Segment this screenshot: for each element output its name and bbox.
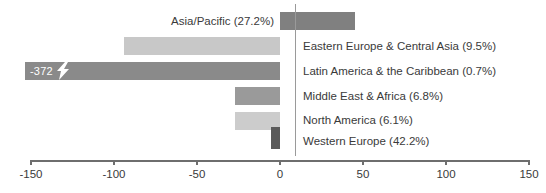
axis-tick — [528, 160, 530, 165]
bar-western-europe[interactable] — [271, 127, 280, 149]
axis-tick-label: -100 — [102, 167, 125, 182]
axis-tick-label: -150 — [19, 167, 42, 182]
bar-inside-label-asia-pacific: Asia/Pacific (27.2%) — [171, 13, 274, 29]
axis-tick-label: 100 — [436, 167, 455, 182]
axis-tick — [113, 160, 115, 165]
axis-tick-label: 0 — [277, 167, 283, 182]
axis-tick — [196, 160, 198, 165]
bar-value-label-latin-america: -372 — [30, 63, 53, 79]
axis-tick — [362, 160, 364, 165]
category-label-middle-east-africa: Middle East & Africa (6.8%) — [303, 88, 443, 104]
bar-middle-east-africa[interactable] — [235, 87, 280, 105]
axis-tick-label: 50 — [357, 167, 370, 182]
axis-tick-label: 150 — [519, 167, 538, 182]
bar-eastern-europe-central-asia[interactable] — [124, 37, 280, 55]
x-axis: -150 -100 -50 0 50 100 150 — [0, 160, 546, 193]
category-label-column: Eastern Europe & Central Asia (9.5%) Lat… — [303, 0, 546, 155]
category-label-eastern-europe-central-asia: Eastern Europe & Central Asia (9.5%) — [303, 38, 496, 54]
plot-area: Asia/Pacific (27.2%) -372 — [0, 0, 546, 155]
category-label-north-america: North America (6.1%) — [303, 112, 413, 128]
category-label-latin-america-caribbean: Latin America & the Caribbean (0.7%) — [303, 63, 496, 79]
bar-chart: Asia/Pacific (27.2%) -372 — [0, 0, 546, 193]
category-label-western-europe: Western Europe (42.2%) — [303, 133, 429, 149]
axis-tick-label: -50 — [189, 167, 206, 182]
zero-reference-line — [295, 4, 296, 156]
axis-break-icon — [56, 62, 72, 84]
axis-tick — [279, 160, 281, 165]
axis-tick — [30, 160, 32, 165]
axis-tick — [445, 160, 447, 165]
